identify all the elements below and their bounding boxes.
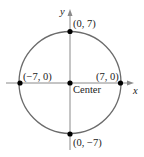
point-bottom: [67, 131, 72, 136]
label-top: (0, 7): [73, 18, 96, 30]
point-top: [67, 29, 72, 34]
point-center: [67, 80, 72, 85]
label-center: Center: [73, 84, 101, 95]
label-left: (−7, 0): [23, 71, 52, 83]
y-axis-label: y: [59, 6, 65, 17]
circle-diagram: y x (0, 7) (−7, 0) (7, 0) (0, −7) Center: [0, 0, 144, 157]
label-right: (7, 0): [96, 71, 119, 83]
label-bottom: (0, −7): [73, 137, 102, 149]
x-axis-label: x: [132, 85, 138, 96]
y-axis-arrow-icon: [68, 9, 73, 16]
point-left: [17, 80, 22, 85]
